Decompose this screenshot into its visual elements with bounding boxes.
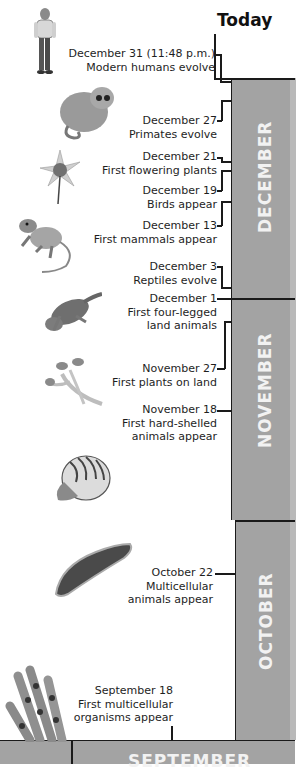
event-description: Birds appear (142, 198, 217, 212)
flower-illustration (36, 146, 84, 206)
event-primates: December 27 Primates evolve (129, 114, 217, 141)
event-four-legged: December 1 First four-legged land animal… (127, 292, 217, 333)
connector-line (221, 170, 232, 172)
connector-line (221, 201, 223, 226)
event-birds: December 19 Birds appear (142, 184, 217, 211)
connector-line (221, 161, 232, 163)
flatworm-illustration (52, 540, 134, 598)
connector-line (217, 298, 232, 300)
event-description: Modern humans evolve (68, 61, 215, 75)
bar-edge (290, 520, 296, 740)
month-label-october: OCTOBER (256, 580, 276, 670)
month-bar-october: OCTOBER (235, 520, 296, 740)
primate-illustration (56, 84, 118, 140)
bar-edge (290, 298, 296, 520)
connector-line (220, 54, 222, 82)
month-bar-september: SEPTEMBER (0, 740, 295, 764)
connector-line (221, 170, 223, 191)
connector-line (224, 321, 232, 323)
event-date: December 31 (11:48 p.m.) (68, 47, 215, 61)
event-hard-shelled: November 18 First hard-shelled animals a… (122, 403, 217, 444)
event-description: First plants on land (112, 376, 217, 390)
connector-line (220, 81, 232, 83)
land-plant-illustration (44, 356, 108, 408)
event-description: Multicellular (128, 580, 213, 594)
event-land-plants: November 27 First plants on land (112, 362, 217, 389)
month-divider (71, 741, 73, 764)
month-divider (235, 520, 295, 522)
event-description: Reptiles evolve (133, 274, 217, 288)
event-reptiles: December 3 Reptiles evolve (133, 260, 217, 287)
connector-line (221, 100, 223, 121)
month-label-december: DECEMBER (255, 143, 275, 233)
month-divider (231, 298, 295, 300)
connector-line (221, 100, 232, 102)
event-mammals: December 13 First mammals appear (94, 219, 217, 246)
month-divider (214, 78, 295, 80)
event-date: December 21 (102, 150, 217, 164)
event-description: animals appear (122, 430, 217, 444)
today-label: Today (217, 10, 272, 30)
event-description: First flowering plants (102, 164, 217, 178)
event-description: First multicellular (74, 698, 173, 712)
connector-line (221, 266, 223, 288)
nautilus-illustration (50, 452, 112, 504)
algae-illustration (0, 650, 72, 742)
event-date: September 18 (74, 684, 173, 698)
event-date: December 13 (94, 219, 217, 233)
event-date: December 1 (127, 292, 217, 306)
event-date: December 27 (129, 114, 217, 128)
event-description: First mammals appear (94, 233, 217, 247)
event-description: First four-legged (127, 306, 217, 320)
event-multicellular-organisms: September 18 First multicellular organis… (74, 684, 173, 725)
month-label-september: SEPTEMBER (128, 751, 251, 771)
month-bar-december: DECEMBER (231, 78, 296, 298)
event-description: Primates evolve (129, 128, 217, 142)
bar-edge (290, 78, 296, 298)
mammal-illustration (16, 212, 80, 274)
connector-line (221, 201, 232, 203)
connector-line (217, 410, 232, 412)
event-description: organisms appear (74, 711, 173, 725)
connector-line (224, 321, 226, 369)
event-description: land animals (127, 319, 217, 333)
event-flowering-plants: December 21 First flowering plants (102, 150, 217, 177)
event-date: December 3 (133, 260, 217, 274)
human-figure-illustration (30, 6, 60, 74)
month-label-november: NOVEMBER (255, 358, 275, 448)
event-date: December 19 (142, 184, 217, 198)
event-multicellular-animals: October 22 Multicellular animals appear (128, 566, 213, 607)
month-bar-november: NOVEMBER (231, 298, 296, 520)
event-date: November 27 (112, 362, 217, 376)
amphibian-illustration (42, 290, 102, 336)
connector-line (171, 726, 173, 740)
event-description: animals appear (128, 593, 213, 607)
connector-line (215, 573, 235, 575)
event-description: First hard-shelled (122, 417, 217, 431)
event-date: November 18 (122, 403, 217, 417)
event-modern-humans: December 31 (11:48 p.m.) Modern humans e… (68, 47, 215, 74)
connector-line (221, 287, 232, 289)
event-date: October 22 (128, 566, 213, 580)
